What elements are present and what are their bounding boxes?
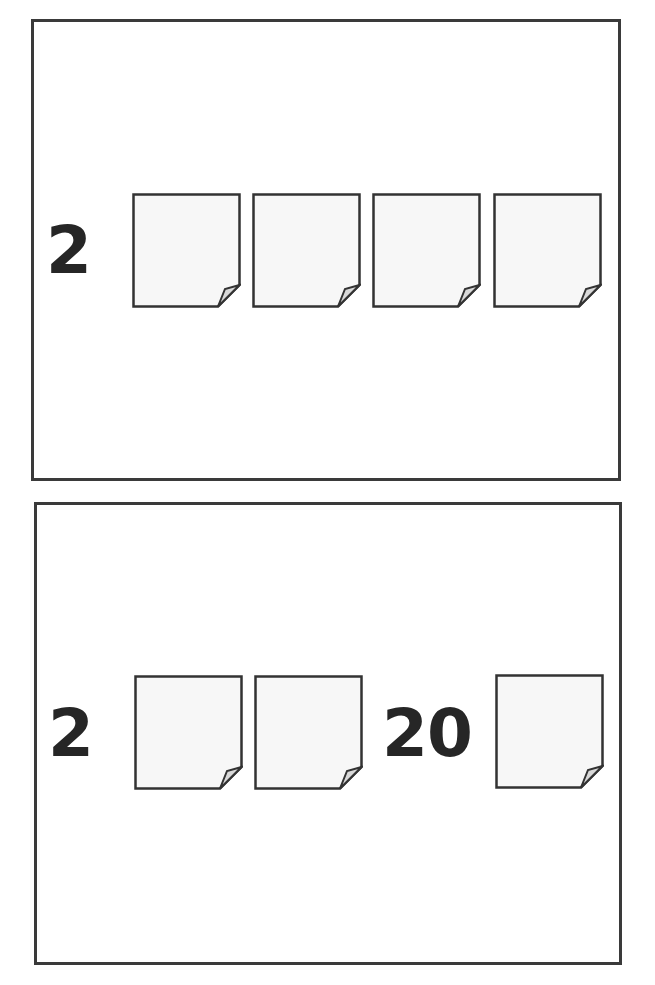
worksheet-panel-1: 2 <box>31 19 621 481</box>
sticky-note-card[interactable] <box>372 193 481 308</box>
numeral-2: 2 <box>46 218 91 284</box>
sticky-note-card[interactable] <box>132 193 241 308</box>
numeral-2: 2 <box>48 701 93 767</box>
numeral-20: 20 <box>382 701 472 767</box>
sticky-note-icon <box>495 674 604 789</box>
worksheet-panel-2: 2 20 <box>34 502 622 965</box>
sticky-note-icon <box>132 193 241 308</box>
sticky-note-icon <box>372 193 481 308</box>
sticky-note-card[interactable] <box>493 193 602 308</box>
sticky-note-card[interactable] <box>254 675 363 790</box>
sticky-note-icon <box>254 675 363 790</box>
sticky-note-card[interactable] <box>495 674 604 789</box>
sticky-note-icon <box>134 675 243 790</box>
sticky-note-card[interactable] <box>252 193 361 308</box>
sticky-note-card[interactable] <box>134 675 243 790</box>
sticky-note-icon <box>493 193 602 308</box>
sticky-note-icon <box>252 193 361 308</box>
